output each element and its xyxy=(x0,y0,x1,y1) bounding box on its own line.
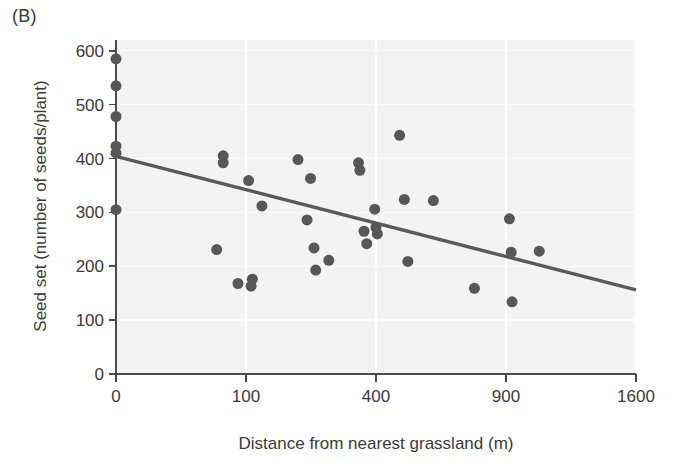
data-point xyxy=(111,53,122,64)
data-point xyxy=(232,278,243,289)
data-point xyxy=(309,242,320,253)
data-point xyxy=(507,296,518,307)
data-point xyxy=(310,265,321,276)
y-tick-label: 600 xyxy=(76,42,104,61)
data-point xyxy=(394,130,405,141)
data-point xyxy=(243,175,254,186)
data-point xyxy=(469,283,480,294)
y-tick-label: 300 xyxy=(76,203,104,222)
data-point xyxy=(402,256,413,267)
data-point xyxy=(211,244,222,255)
x-tick-label: 400 xyxy=(362,387,390,406)
data-point xyxy=(218,157,229,168)
data-point xyxy=(359,226,370,237)
data-point xyxy=(399,194,410,205)
data-point xyxy=(111,80,122,91)
data-point xyxy=(111,204,122,215)
figure-panel-b: (B) Seed set (number of seeds/plant) Dis… xyxy=(0,0,680,469)
data-point xyxy=(302,214,313,225)
y-tick-label: 100 xyxy=(76,311,104,330)
data-point xyxy=(534,246,545,257)
data-point xyxy=(361,238,372,249)
x-tick-label: 100 xyxy=(232,387,260,406)
data-point xyxy=(293,154,304,165)
data-point xyxy=(256,200,267,211)
data-point xyxy=(323,255,334,266)
y-tick-label: 400 xyxy=(76,150,104,169)
y-tick-label: 200 xyxy=(76,257,104,276)
x-tick-label: 0 xyxy=(111,387,120,406)
x-tick-label: 900 xyxy=(492,387,520,406)
data-point xyxy=(111,148,122,159)
y-tick-label: 500 xyxy=(76,96,104,115)
data-point xyxy=(372,228,383,239)
data-point xyxy=(305,173,316,184)
data-point xyxy=(354,165,365,176)
x-tick-label: 1600 xyxy=(617,387,655,406)
data-point xyxy=(247,274,258,285)
data-point xyxy=(111,111,122,122)
y-tick-label: 0 xyxy=(95,365,104,384)
scatter-plot: 010020030040050060001004009001600 xyxy=(0,0,680,469)
data-point xyxy=(369,204,380,215)
data-point xyxy=(428,195,439,206)
data-point xyxy=(504,213,515,224)
data-point xyxy=(506,247,517,258)
